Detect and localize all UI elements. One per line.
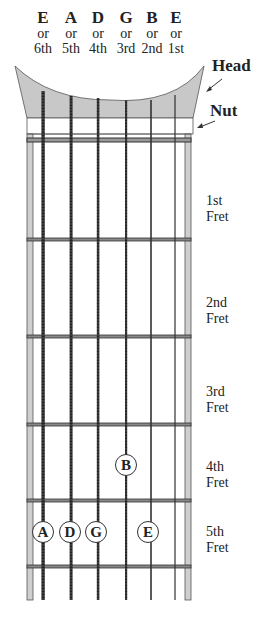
note-marker-b: B <box>115 454 137 476</box>
note-marker-a: A <box>32 521 54 543</box>
guitar-fretboard-diagram: E or 6th A or 5th D or 4th G or 3rd B or… <box>0 0 257 620</box>
string-3 <box>125 100 127 600</box>
fret-number: 3rd <box>206 384 225 399</box>
fret-label-4: 4th Fret <box>206 459 229 491</box>
fret-word: Fret <box>206 540 229 555</box>
note-marker-e: E <box>137 521 159 543</box>
fret-word: Fret <box>206 400 229 415</box>
fret-word: Fret <box>206 209 229 224</box>
fret-word: Fret <box>206 475 229 490</box>
fret-3 <box>27 423 191 426</box>
fret-number: 5th <box>206 524 224 539</box>
fret-word: Fret <box>206 311 229 326</box>
fret-label-5: 5th Fret <box>206 524 229 556</box>
fretboard-edge-right <box>185 134 191 600</box>
string-1 <box>174 95 175 600</box>
fret-1 <box>27 238 191 241</box>
head-label: Head <box>212 56 251 76</box>
fret-label-3: 3rd Fret <box>206 384 229 416</box>
fret-5 <box>27 565 191 568</box>
note-marker-d: D <box>59 521 81 543</box>
fret-number: 1st <box>206 193 222 208</box>
fret-number: 2nd <box>206 295 227 310</box>
fret-4 <box>27 499 191 502</box>
nut <box>27 138 191 142</box>
fret-number: 4th <box>206 459 224 474</box>
nut-label: Nut <box>210 101 237 121</box>
fret-label-1: 1st Fret <box>206 193 229 225</box>
note-marker-g: G <box>85 521 107 543</box>
fret-2 <box>27 335 191 338</box>
fret-label-2: 2nd Fret <box>206 295 229 327</box>
